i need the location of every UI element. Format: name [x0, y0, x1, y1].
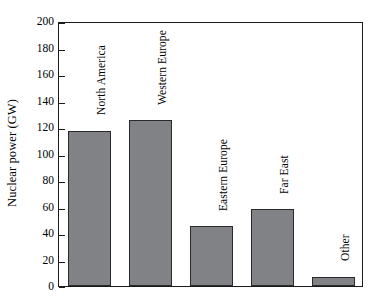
y-tick-label: 200 — [22, 16, 54, 28]
y-tick-mark — [59, 287, 65, 288]
y-tick-label: 40 — [22, 228, 54, 240]
bar-chart: Nuclear power (GW) 020406080100120140160… — [0, 0, 379, 307]
bar[interactable] — [251, 209, 294, 286]
y-tick-label: 100 — [22, 149, 54, 161]
bar-category-label: Eastern Europe — [217, 139, 229, 211]
y-axis-title: Nuclear power (GW) — [1, 0, 23, 307]
bar-group[interactable]: Far East — [251, 21, 294, 286]
plot-area: North AmericaWestern EuropeEastern Europ… — [58, 22, 363, 287]
bar-category-label: Other — [339, 235, 351, 262]
y-tick-label: 180 — [22, 43, 54, 55]
y-tick-label: 80 — [22, 175, 54, 187]
bar[interactable] — [129, 120, 172, 286]
bar-group[interactable]: Eastern Europe — [190, 21, 233, 286]
y-tick-label: 120 — [22, 122, 54, 134]
bars-layer: North AmericaWestern EuropeEastern Europ… — [59, 23, 362, 286]
y-tick-label: 20 — [22, 255, 54, 267]
y-tick-label: 60 — [22, 202, 54, 214]
bar[interactable] — [312, 277, 355, 286]
bar-category-label: Western Europe — [156, 30, 168, 105]
y-tick-label: 140 — [22, 96, 54, 108]
bar-group[interactable]: Western Europe — [129, 21, 172, 286]
bar-category-label: Far East — [278, 155, 290, 194]
bar[interactable] — [68, 131, 111, 286]
bar-category-label: North America — [95, 46, 107, 116]
bar[interactable] — [190, 226, 233, 286]
bar-group[interactable]: North America — [68, 21, 111, 286]
y-axis-tick-labels: 020406080100120140160180200 — [22, 22, 54, 287]
y-tick-label: 0 — [22, 281, 54, 293]
plot-inner: North AmericaWestern EuropeEastern Europ… — [59, 23, 362, 286]
y-tick-label: 160 — [22, 69, 54, 81]
bar-group[interactable]: Other — [312, 21, 355, 286]
